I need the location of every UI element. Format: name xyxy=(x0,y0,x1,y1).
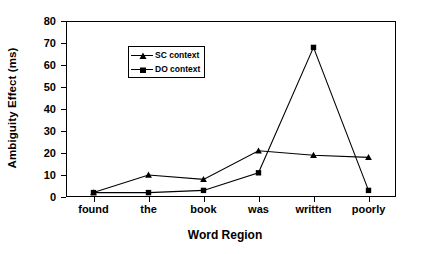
triangle-marker-icon xyxy=(129,49,155,63)
x-tick-label: was xyxy=(248,203,269,215)
x-tick-mark xyxy=(369,197,370,202)
x-tick-mark xyxy=(94,197,95,202)
legend-entry-do-context: DO context xyxy=(129,62,204,77)
ambiguity-effect-line-chart: Ambiguity Effect (ms) 01020304050607080 … xyxy=(0,0,422,254)
x-tick-mark xyxy=(314,197,315,202)
square-glyph xyxy=(139,66,147,74)
x-tick-label: the xyxy=(140,203,157,215)
square-data-marker xyxy=(201,188,206,193)
legend-label-sc-context: SC context xyxy=(155,51,199,60)
x-tick-label: found xyxy=(78,203,109,215)
square-marker-icon xyxy=(129,63,155,77)
x-tick-label: poorly xyxy=(352,203,386,215)
square-data-marker xyxy=(366,188,371,193)
chart-legend: SC context DO context xyxy=(128,46,205,78)
square-data-marker xyxy=(311,45,316,50)
series-line xyxy=(94,151,369,193)
x-axis-title: Word Region xyxy=(60,228,390,242)
data-series-layer xyxy=(0,0,422,254)
series-sc-context xyxy=(90,147,372,195)
x-tick-mark xyxy=(259,197,260,202)
square-data-marker xyxy=(146,190,151,195)
x-tick-label: book xyxy=(190,203,216,215)
square-data-marker xyxy=(91,190,96,195)
x-tick-mark xyxy=(149,197,150,202)
x-tick-mark xyxy=(204,197,205,202)
legend-label-do-context: DO context xyxy=(155,65,200,74)
legend-entry-sc-context: SC context xyxy=(129,48,204,63)
x-tick-label: written xyxy=(295,203,331,215)
triangle-glyph xyxy=(139,52,147,60)
square-data-marker xyxy=(256,170,261,175)
